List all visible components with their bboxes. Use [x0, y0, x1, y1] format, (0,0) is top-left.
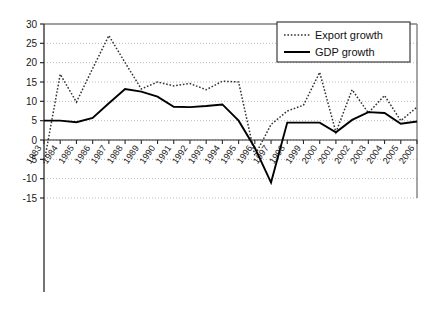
legend-item-label: Export growth [315, 29, 383, 41]
x-tick-label: 1985 [56, 143, 76, 165]
x-tick-label: 1989 [121, 143, 141, 165]
x-tick-label: 2002 [332, 143, 352, 165]
x-tick-label: 1992 [170, 143, 190, 165]
x-tick-label: 1990 [137, 143, 157, 165]
x-tick-label: 2001 [316, 143, 336, 165]
y-tick-label: 25 [26, 38, 38, 49]
y-tick-label: -15 [23, 193, 38, 204]
x-tick-label: 1994 [202, 143, 222, 165]
y-tick-label: 15 [26, 77, 38, 88]
gridlines-group [44, 43, 417, 198]
x-tick-label: 2005 [381, 143, 401, 165]
x-axis-labels: 1983198419851986198719881989199019911992… [24, 143, 417, 165]
line-chart: -15-10-5051015202530 1983198419851986198… [0, 0, 432, 312]
y-tick-label: 10 [26, 96, 38, 107]
y-tick-label: 30 [26, 19, 38, 30]
x-tick-label: 1983 [24, 143, 44, 165]
x-tick-label: 2003 [348, 143, 368, 165]
x-tick-label: 1996 [235, 143, 255, 165]
y-axis-labels: -15-10-5051015202530 [23, 19, 38, 204]
chart-legend: Export growthGDP growth [277, 22, 410, 62]
x-tick-label: 1984 [40, 143, 60, 165]
chart-container: -15-10-5051015202530 1983198419851986198… [0, 0, 432, 312]
x-tick-label: 1988 [105, 143, 125, 165]
x-tick-label: 1991 [154, 143, 174, 165]
x-tick-label: 2006 [397, 143, 417, 165]
x-tick-label: 2000 [300, 143, 320, 165]
x-tick-label: 1999 [283, 143, 303, 165]
y-tick-label: -10 [23, 173, 38, 184]
x-tick-label: 1987 [89, 143, 109, 165]
y-tick-label: 5 [31, 115, 37, 126]
y-tick-label: 20 [26, 57, 38, 68]
x-tick-label: 1993 [186, 143, 206, 165]
x-tick-label: 2004 [365, 143, 385, 165]
x-tick-label: 1995 [219, 143, 239, 165]
x-tick-label: 1986 [73, 143, 93, 165]
legend-item-label: GDP growth [315, 46, 375, 58]
